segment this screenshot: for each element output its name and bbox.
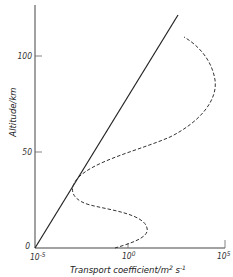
- x-tick-label-5-exp: 5: [227, 250, 231, 258]
- x-tick-label-m5-exp: -5: [40, 251, 46, 259]
- x-axis-title: Transport coefficient/m2 s-1: [70, 264, 186, 275]
- y-tick-label-0: 0: [25, 241, 30, 251]
- solid-line-series: [35, 15, 178, 248]
- x-tick-label-0-exp: 0: [132, 250, 136, 258]
- x-tick-label-5-base: 10: [217, 251, 227, 261]
- x-tick-label-0: 100: [122, 250, 136, 261]
- x-tick-label-5: 105: [217, 250, 231, 261]
- x-tick-label-m5-base: 10: [30, 252, 40, 262]
- y-tick-label-50: 50: [22, 147, 32, 157]
- x-axis-title-sup2: -1: [180, 264, 186, 271]
- y-axis-title: Altitude/km: [8, 87, 18, 137]
- y-tick-label-100: 100: [17, 51, 32, 61]
- x-axis-title-main: Transport coefficient/m: [70, 265, 169, 275]
- x-tick-label-m5: 10-5: [30, 251, 46, 262]
- x-tick-label-0-base: 10: [122, 251, 132, 261]
- chart: 100 50 0 10-5 100 105 Altitude/km Transp…: [0, 0, 233, 277]
- dashed-curve-series: [73, 37, 216, 248]
